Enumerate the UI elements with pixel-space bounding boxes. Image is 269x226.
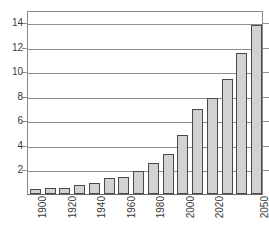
right-axis-ticks	[263, 11, 269, 195]
bar-1930	[74, 185, 85, 194]
right-tick-2	[263, 170, 269, 171]
bar-1910	[45, 188, 56, 194]
right-tick-10	[263, 72, 269, 73]
bar-2040	[236, 53, 247, 194]
x-axis-label-2020: 2020	[215, 196, 225, 218]
x-axis-label-1920: 1920	[68, 196, 78, 218]
bar-2010	[192, 109, 203, 194]
bar-1960	[118, 177, 129, 194]
x-axis-label-1960: 1960	[127, 196, 137, 218]
right-tick-4	[263, 146, 269, 147]
y-axis-label: 2	[17, 165, 23, 175]
bar-series	[28, 12, 262, 194]
x-axis-label-2050: 2050	[260, 196, 269, 218]
y-axis-label: 4	[17, 141, 23, 151]
bar-1970	[133, 171, 144, 194]
y-axis-label: 8	[17, 92, 23, 102]
x-axis-label-1940: 1940	[97, 196, 107, 218]
right-tick-14	[263, 23, 269, 24]
bar-2030	[222, 79, 233, 194]
x-axis-label-1980: 1980	[156, 196, 166, 218]
bar-1940	[89, 183, 100, 194]
right-tick-8	[263, 97, 269, 98]
y-axis-label: 14	[12, 18, 23, 28]
x-axis-label-2000: 2000	[186, 196, 196, 218]
bar-2020	[207, 98, 218, 194]
bar-2000	[177, 135, 188, 194]
bar-1980	[148, 163, 159, 194]
right-tick-6	[263, 121, 269, 122]
y-axis-label: 6	[17, 116, 23, 126]
right-tick-12	[263, 48, 269, 49]
plot-area	[27, 11, 263, 195]
y-axis-label: 12	[12, 43, 23, 53]
y-axis-labels: 2468101214	[0, 0, 26, 196]
bar-1990	[163, 154, 174, 194]
bar-chart: 2468101214 19001920194019601980200020202…	[0, 0, 269, 226]
bar-1920	[59, 188, 70, 194]
bar-1900	[30, 189, 41, 194]
x-axis-labels: 19001920194019601980200020202050	[27, 196, 263, 226]
x-axis-label-1900: 1900	[38, 196, 48, 218]
bar-1950	[104, 178, 115, 194]
chart-title-clipped	[60, 0, 240, 3]
y-axis-label: 10	[12, 67, 23, 77]
bar-2050	[251, 25, 262, 194]
